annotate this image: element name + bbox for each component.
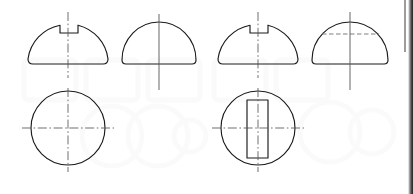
figure-d-profile-with-hidden-keyway (312, 12, 388, 90)
figure-d-profile-with-keyway-notch (28, 12, 108, 78)
watermark-shape (128, 106, 188, 166)
watermark-shape (350, 110, 394, 154)
watermark-layer (24, 60, 394, 166)
watermark-shape (148, 60, 200, 100)
figure-d-profile-plain (122, 14, 196, 90)
watermark-shape (276, 60, 328, 100)
figure-d-profile-with-keyway-notch-2 (218, 12, 298, 78)
keyway-slot-rect (247, 100, 268, 158)
scanned-page-edge-shadow (404, 0, 406, 52)
scanned-page-edge-artifact (408, 0, 413, 194)
drawing-sheet (0, 0, 413, 194)
technical-drawing-canvas (0, 0, 413, 194)
watermark-shape (86, 60, 138, 100)
